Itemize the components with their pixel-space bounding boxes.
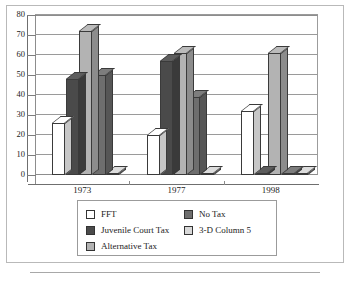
y-tick-mark xyxy=(27,55,36,56)
bar-front-face xyxy=(268,53,281,175)
bar-no-tax-1998 xyxy=(282,173,295,175)
y-tick-label: 40 xyxy=(1,90,25,99)
legend-item-fft[interactable]: FFT xyxy=(86,206,117,222)
bar-front-face xyxy=(282,173,295,175)
legend-swatch-icon xyxy=(184,226,193,235)
legend-label: Juvenile Court Tax xyxy=(101,225,169,235)
legend-label: 3-D Column 5 xyxy=(199,225,251,235)
legend-item-3-d-column-5[interactable]: 3-D Column 5 xyxy=(184,222,251,238)
y-tick-label: 0 xyxy=(1,170,25,179)
gridline xyxy=(35,14,318,15)
bar-side-face xyxy=(187,48,194,175)
y-tick-label: 20 xyxy=(1,130,25,139)
bar-side-face xyxy=(79,74,86,175)
legend-item-no-tax[interactable]: No Tax xyxy=(184,206,225,222)
bar-front-face xyxy=(201,173,214,175)
bar-3-d-column-5-1973 xyxy=(106,173,119,175)
gridline xyxy=(35,34,318,35)
figure-3d-bar-chart: 01020304050607080 197319771998 FFTJuveni… xyxy=(0,0,351,281)
bar-front-face xyxy=(241,111,254,175)
y-tick-mark xyxy=(27,155,36,156)
x-tick-label-1977: 1977 xyxy=(152,185,202,195)
legend-swatch-icon xyxy=(184,210,193,219)
bar-side-face xyxy=(254,106,261,175)
legend-label: Alternative Tax xyxy=(101,241,157,251)
y-axis-labels: 01020304050607080 xyxy=(0,0,25,200)
legend-swatch-icon xyxy=(86,242,95,251)
bar-fft-1977 xyxy=(147,135,160,175)
bar-front-face xyxy=(255,173,268,175)
bottom-horizontal-rule xyxy=(30,272,320,273)
bar-fft-1998 xyxy=(241,111,254,175)
y-tick-label: 30 xyxy=(1,110,25,119)
bar-side-face xyxy=(106,70,113,175)
y-tick-label: 60 xyxy=(1,50,25,59)
bar-side-face xyxy=(92,26,99,175)
legend-swatch-icon xyxy=(86,210,95,219)
x-tick-mark xyxy=(224,181,225,185)
bar-fft-1973 xyxy=(52,123,65,175)
bar-side-face xyxy=(160,130,167,175)
y-tick-mark xyxy=(27,135,36,136)
y-tick-mark xyxy=(27,15,36,16)
bar-juvenile-court-tax-1998 xyxy=(255,173,268,175)
legend-item-alternative-tax[interactable]: Alternative Tax xyxy=(86,238,157,254)
bar-side-face xyxy=(65,118,72,175)
x-tick-mark xyxy=(129,181,130,185)
plot-floor xyxy=(35,175,318,184)
bar-side-face xyxy=(281,48,288,175)
y-tick-label: 10 xyxy=(1,150,25,159)
y-tick-label: 70 xyxy=(1,30,25,39)
y-tick-mark xyxy=(27,35,36,36)
y-tick-mark xyxy=(27,115,36,116)
plot-area xyxy=(35,15,318,175)
y-tick-label: 50 xyxy=(1,70,25,79)
chart-legend: FFTJuvenile Court TaxAlternative TaxNo T… xyxy=(77,200,277,256)
bar-front-face xyxy=(52,123,65,175)
legend-item-juvenile-court-tax[interactable]: Juvenile Court Tax xyxy=(86,222,169,238)
y-tick-mark xyxy=(27,75,36,76)
y-tick-label: 80 xyxy=(1,10,25,19)
legend-label: No Tax xyxy=(199,209,225,219)
y-tick-mark xyxy=(27,95,36,96)
bar-3-d-column-5-1977 xyxy=(201,173,214,175)
legend-label: FFT xyxy=(101,209,117,219)
y-tick-mark xyxy=(27,175,36,176)
bar-front-face xyxy=(106,173,119,175)
legend-swatch-icon xyxy=(86,226,95,235)
bar-side-face xyxy=(200,92,207,175)
bar-front-face xyxy=(147,135,160,175)
x-tick-label-1973: 1973 xyxy=(57,185,107,195)
bar-side-face xyxy=(173,56,180,175)
x-tick-label-1998: 1998 xyxy=(246,185,296,195)
bar-alternative-tax-1998 xyxy=(268,53,281,175)
